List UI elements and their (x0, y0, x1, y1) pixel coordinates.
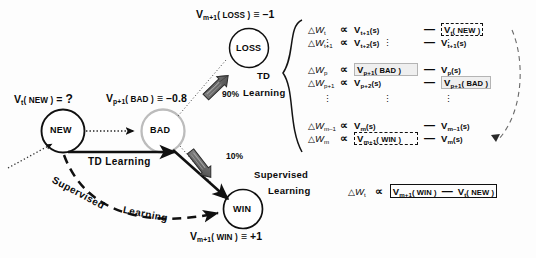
td-lhs-value: Vt+1(s) (354, 24, 379, 35)
td-rhs-value: Vm(s) (441, 133, 463, 144)
minus-symbol: — (424, 119, 435, 131)
td-lhs-paren: (s) (370, 39, 380, 48)
w-symbol: W (315, 64, 324, 75)
td-lhs-value: Vp+1( BAD ) (357, 64, 401, 75)
minus-symbol: — (424, 23, 435, 35)
node-label-win: WIN (233, 205, 251, 214)
edge-incoming-dotted (8, 144, 52, 168)
td-delta-w: △Wp (308, 64, 338, 75)
td-lhs-term: Vp+1( BAD ) (354, 63, 418, 76)
w-symbol: W (315, 24, 324, 35)
proportional-symbol: ∝ (340, 36, 348, 49)
value-label-new-paren: ( NEW ) (23, 96, 53, 105)
ellipsis-rhs-upper: ⋮ (443, 42, 453, 45)
proportional-symbol: ∝ (340, 76, 348, 89)
supervised-rhs-paren: ( NEW ) (466, 188, 494, 197)
value-label-new-value: ? (66, 92, 73, 106)
proportional-symbol: ∝ (340, 63, 348, 76)
td-equation-row: △Wt∝Vt+1(s)—Vt( NEW ) (308, 22, 483, 36)
w-symbol-supervised: W (355, 186, 364, 197)
td-delta-w: △Wt (308, 24, 338, 35)
td-equation-row: △Wp∝Vp+1( BAD )—Vp(s) (308, 62, 461, 76)
minus-symbol: — (424, 132, 435, 144)
td-brace-left (283, 20, 302, 152)
value-label-bad-eq: ≡ (157, 92, 166, 104)
minus-symbol: — (424, 36, 435, 48)
td-rhs-paren: ( BAD ) (462, 79, 488, 88)
supervised-dw-sub: t (364, 191, 366, 198)
ellipsis-mid-lower: ⋮ (382, 98, 392, 101)
td-lhs-term: Vt+1(s) (354, 24, 418, 35)
td-equation-row: △Wm∝Vm+1( WIN )—Vm(s) (308, 131, 463, 145)
td-equation-row: △Wm–1∝Vm(s)—Vm–1(s) (308, 118, 470, 132)
td-lhs-paren: ( BAD ) (375, 66, 401, 75)
delta-symbol: △ (308, 25, 315, 35)
td-rhs-term: Vm(s) (441, 133, 463, 144)
delta-symbol: △ (308, 134, 315, 144)
td-lhs-value: Vt+2(s) (354, 37, 379, 48)
td-lhs-sub: m+1 (363, 138, 376, 145)
delta-symbol-supervised: △ (348, 187, 355, 197)
td-delta-w: △Wm (308, 133, 338, 144)
td-rhs-paren: (s) (460, 122, 470, 131)
td-group-label-line1: TD (257, 71, 270, 81)
td-rhs-value: Vp+1( BAD ) (444, 77, 488, 88)
branch-probability-10: 10% (226, 152, 243, 161)
value-label-bad-paren: ( BAD ) (125, 95, 153, 104)
td-rhs-paren: ( NEW ) (453, 26, 481, 35)
td-rhs-value: Vt( NEW ) (444, 24, 480, 35)
value-label-loss: Vm+1( LOSS ) ≡ –1 (196, 9, 274, 20)
value-label-win-sub: m+1 (197, 236, 211, 243)
node-label-loss: LOSS (236, 44, 261, 53)
proportional-symbol: ∝ (340, 23, 348, 36)
ellipsis-lhs-upper: ⋮ (322, 42, 332, 45)
value-label-new: Vt( NEW ) = ? (14, 93, 73, 105)
td-rhs-paren: (s) (453, 135, 463, 144)
minus-symbol-supervised: — (442, 185, 453, 197)
td-lhs-sub: t+2 (360, 42, 369, 49)
td-rhs-paren: (s) (451, 66, 461, 75)
branch-probability-90: 90% (222, 90, 239, 99)
w-symbol: W (315, 77, 324, 88)
edge-label-td-learning: TD Learning (88, 157, 151, 167)
td-rhs-term: Vp(s) (441, 64, 461, 75)
td-dw-sub: m (324, 138, 329, 145)
node-label-new: NEW (50, 126, 72, 135)
td-rhs-value: Vp(s) (441, 64, 461, 75)
td-rhs-value: Vm–1(s) (441, 120, 470, 131)
td-lhs-sub: p+2 (360, 82, 371, 89)
supervised-boxed-expression: Vm+1( WIN ) — Vt( NEW ) (390, 184, 497, 198)
supervised-lhs-paren: ( WIN ) (412, 188, 437, 197)
value-label-win-eq: ≡ (241, 230, 250, 242)
supervised-equation-row: △Wt ∝ Vm+1( WIN ) — Vt( NEW ) (348, 184, 497, 198)
delta-symbol: △ (308, 65, 315, 75)
ellipsis-mid-upper: ⋮ (382, 42, 392, 45)
value-label-bad: Vp+1( BAD ) ≡ –0.8 (106, 93, 187, 104)
value-label-new-eq: = (56, 93, 65, 105)
td-rhs-term: Vt( NEW ) (441, 23, 483, 36)
supervised-group-label-line2: Learning (268, 186, 311, 196)
supervised-lhs-term: Vm+1( WIN ) (393, 186, 437, 197)
td-lhs-term: Vm+1( WIN ) (354, 132, 418, 145)
delta-symbol: △ (308, 38, 315, 48)
supervised-delta-w: △Wt (348, 186, 366, 197)
td-equation-row: △Wp+1∝Vp+2(s)—Vp+1( BAD ) (308, 75, 491, 89)
td-rhs-sub: p+1 (450, 82, 461, 89)
supervised-rhs-term: Vt( NEW ) (458, 186, 494, 197)
feedback-arrow-head (491, 134, 500, 142)
w-symbol: W (315, 120, 324, 131)
proportional-symbol: ∝ (340, 132, 348, 145)
value-label-bad-sub: p+1 (113, 98, 125, 105)
td-lhs-paren: (s) (372, 79, 382, 88)
td-lhs-value: Vm(s) (354, 120, 376, 131)
proportional-symbol-supervised: ∝ (375, 185, 383, 198)
node-label-bad: BAD (150, 126, 170, 135)
ellipsis-rhs-lower: ⋮ (443, 98, 453, 101)
minus-symbol: — (424, 63, 435, 75)
value-label-loss-eq: ≡ (253, 8, 262, 20)
w-symbol: W (315, 133, 324, 144)
value-label-win: Vm+1( WIN ) ≡ +1 (190, 231, 262, 242)
td-rhs-term: Vm–1(s) (441, 120, 470, 131)
td-rhs-term: Vp+1( BAD ) (441, 76, 491, 89)
td-lhs-value: Vm+1( WIN ) (357, 133, 401, 144)
